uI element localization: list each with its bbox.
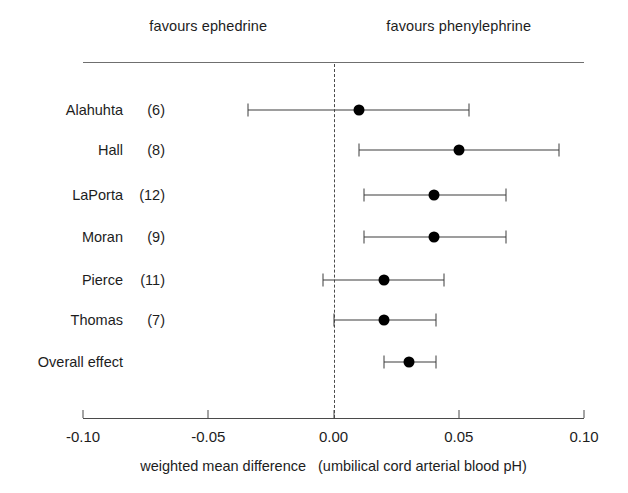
point-estimate-marker xyxy=(428,232,439,243)
ci-lower-cap xyxy=(358,144,359,157)
x-axis-tick xyxy=(584,410,585,418)
point-estimate-marker xyxy=(378,315,389,326)
ci-upper-cap xyxy=(436,356,437,369)
ci-lower-cap xyxy=(363,231,364,244)
ci-lower-cap xyxy=(248,104,249,117)
ci-lower-cap xyxy=(383,356,384,369)
x-axis-line xyxy=(83,418,584,419)
study-name: Thomas xyxy=(71,312,123,328)
ci-lower-cap xyxy=(363,189,364,202)
study-name: Moran xyxy=(82,229,123,245)
x-axis-tick-label: -0.10 xyxy=(66,428,100,445)
ci-upper-cap xyxy=(506,231,507,244)
study-sample-count: (8) xyxy=(123,142,165,158)
study-sample-count: (9) xyxy=(123,229,165,245)
x-axis-tick-label: 0.05 xyxy=(444,428,473,445)
ci-upper-cap xyxy=(443,274,444,287)
ci-upper-cap xyxy=(468,104,469,117)
study-label: LaPorta(12) xyxy=(72,187,165,203)
ci-upper-cap xyxy=(558,144,559,157)
study-name: LaPorta xyxy=(72,187,123,203)
point-estimate-marker xyxy=(403,357,414,368)
study-label: Alahuhta(6) xyxy=(66,102,165,118)
x-axis-title-main: weighted mean difference xyxy=(140,458,306,474)
x-axis-tick xyxy=(83,410,84,418)
x-axis-title-sub: (umbilical cord arterial blood pH) xyxy=(318,458,527,474)
study-label: Moran(9) xyxy=(82,229,165,245)
favours-ephedrine-label: favours ephedrine xyxy=(149,18,267,34)
top-rule xyxy=(83,62,584,63)
ci-upper-cap xyxy=(506,189,507,202)
ci-upper-cap xyxy=(436,314,437,327)
point-estimate-marker xyxy=(453,145,464,156)
study-label: Hall(8) xyxy=(98,142,165,158)
x-axis-tick-label: 0.10 xyxy=(569,428,598,445)
study-name: Overall effect xyxy=(38,354,123,370)
x-axis-title: weighted mean difference(umbilical cord … xyxy=(140,458,527,474)
study-sample-count: (6) xyxy=(123,102,165,118)
favours-phenylephrine-label: favours phenylephrine xyxy=(386,18,531,34)
x-axis-tick xyxy=(208,410,209,418)
study-name: Pierce xyxy=(82,272,123,288)
point-estimate-marker xyxy=(428,190,439,201)
point-estimate-marker xyxy=(353,105,364,116)
x-axis-tick xyxy=(333,410,334,418)
ci-lower-cap xyxy=(323,274,324,287)
x-axis-tick xyxy=(458,410,459,418)
no-effect-reference-line xyxy=(334,64,335,418)
study-sample-count: (7) xyxy=(123,312,165,328)
study-sample-count: (12) xyxy=(123,187,165,203)
x-axis-tick-label: -0.05 xyxy=(191,428,225,445)
x-axis-tick-label: 0.00 xyxy=(319,428,348,445)
point-estimate-marker xyxy=(378,275,389,286)
forest-plot: favours ephedrine favours phenylephrine … xyxy=(0,0,628,493)
ci-lower-cap xyxy=(333,314,334,327)
study-sample-count: (11) xyxy=(123,272,165,288)
study-name: Hall xyxy=(98,142,123,158)
study-label: Overall effect xyxy=(38,354,165,370)
study-name: Alahuhta xyxy=(66,102,123,118)
study-label: Thomas(7) xyxy=(71,312,165,328)
study-label: Pierce(11) xyxy=(82,272,165,288)
